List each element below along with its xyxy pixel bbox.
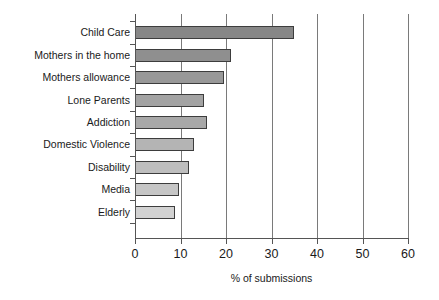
y-tick: [130, 66, 136, 67]
x-tick: [135, 238, 136, 244]
bar: [135, 94, 204, 107]
gridline-50: [363, 14, 364, 238]
y-tick: [130, 200, 136, 201]
x-tick-label: 0: [115, 247, 155, 261]
category-label: Mothers in the home: [2, 49, 130, 62]
x-tick: [272, 238, 273, 244]
bar: [135, 71, 224, 84]
gridline-60: [408, 14, 409, 238]
y-tick: [130, 133, 136, 134]
x-tick-label: 60: [388, 247, 428, 261]
category-label: Child Care: [2, 26, 130, 39]
y-tick: [130, 223, 136, 224]
category-axis-labels: Child CareMothers in the homeMothers all…: [0, 14, 130, 238]
x-tick: [226, 238, 227, 244]
y-tick: [130, 44, 136, 45]
x-tick: [317, 238, 318, 244]
category-label: Addiction: [2, 116, 130, 129]
category-label: Media: [2, 183, 130, 196]
bar: [135, 206, 175, 219]
category-label: Mothers allowance: [2, 71, 130, 84]
bar: [135, 138, 194, 151]
category-label: Domestic Violence: [2, 138, 130, 151]
gridline-20: [226, 14, 227, 238]
y-axis-line: [135, 14, 136, 238]
x-tick-label: 50: [343, 247, 383, 261]
bar-chart: Child CareMothers in the homeMothers all…: [0, 0, 439, 300]
plot-area: [135, 14, 408, 238]
x-tick: [181, 238, 182, 244]
y-tick: [130, 21, 136, 22]
bar: [135, 183, 179, 196]
x-tick-label: 30: [252, 247, 292, 261]
x-tick-label: 20: [206, 247, 246, 261]
y-tick: [130, 88, 136, 89]
gridline-40: [317, 14, 318, 238]
category-label: Elderly: [2, 206, 130, 219]
y-tick: [130, 178, 136, 179]
category-label: Disability: [2, 161, 130, 174]
x-tick-label: 40: [297, 247, 337, 261]
bar: [135, 161, 189, 174]
bar: [135, 26, 294, 39]
x-tick-label: 10: [161, 247, 201, 261]
bar: [135, 49, 231, 62]
y-tick: [130, 111, 136, 112]
category-label: Lone Parents: [2, 94, 130, 107]
gridline-30: [272, 14, 273, 238]
x-tick: [408, 238, 409, 244]
x-tick: [363, 238, 364, 244]
x-axis-title: % of submissions: [135, 272, 408, 284]
y-tick: [130, 156, 136, 157]
bar: [135, 116, 207, 129]
